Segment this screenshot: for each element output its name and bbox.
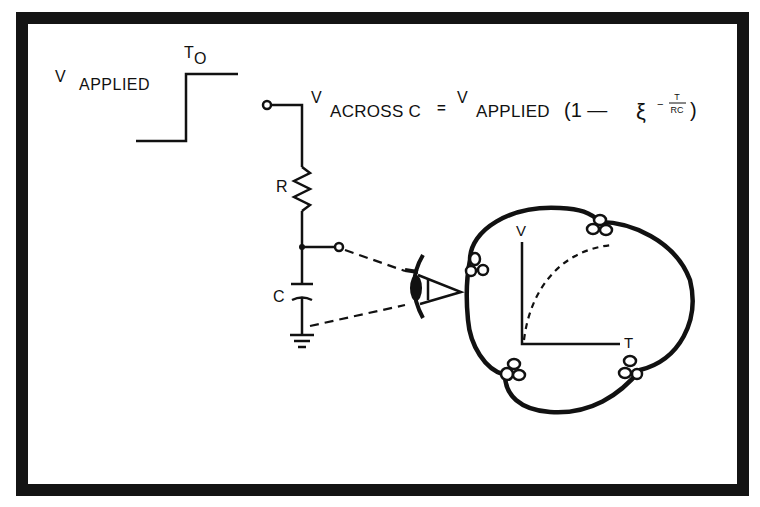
exponential-curve (524, 245, 612, 340)
input-terminal (263, 101, 271, 109)
eq-open-paren: (1 — (564, 99, 607, 121)
eq-exp-num: T (674, 92, 680, 102)
plot-axes (522, 242, 620, 344)
step-waveform (136, 74, 238, 141)
knot-bottom-left (501, 359, 525, 380)
v-applied-subscript: APPLIED (79, 76, 150, 93)
knot-bottom-right (619, 356, 642, 379)
eq-across-subscript: ACROSS C (330, 102, 421, 121)
rc-circuit (263, 101, 343, 347)
sight-lines (310, 250, 405, 326)
eq-v-applied: V (457, 89, 468, 106)
eq-xi: ξ (636, 99, 646, 124)
eye-icon (405, 255, 461, 318)
t0-label: T (184, 44, 194, 61)
junction-dot (299, 244, 305, 250)
charging-curve-plot: V T (516, 222, 633, 351)
eq-close-paren: ) (690, 99, 697, 121)
knot-top (587, 215, 612, 235)
scope-bubble (466, 208, 693, 413)
charging-equation: V ACROSS C = V APPLIED (1 — ξ − T RC ) (311, 89, 697, 124)
resistor-symbol (294, 167, 310, 211)
capacitor-label: C (273, 288, 285, 305)
eq-exp-den: RC (671, 105, 684, 115)
t0-subscript: O (194, 50, 206, 67)
v-applied-label: V (55, 68, 66, 85)
t-axis-label: T (624, 334, 633, 351)
eq-v-across: V (311, 89, 322, 106)
output-terminal (335, 243, 343, 251)
v-axis-label: V (516, 222, 526, 239)
rc-circuit-diagram: V APPLIED T O V ACROSS C = V APPLIED (1 … (0, 0, 760, 507)
eq-equals: = (437, 99, 446, 116)
eq-exp-minus: − (657, 98, 663, 110)
resistor-label: R (276, 178, 288, 195)
eq-applied-subscript: APPLIED (476, 102, 550, 121)
